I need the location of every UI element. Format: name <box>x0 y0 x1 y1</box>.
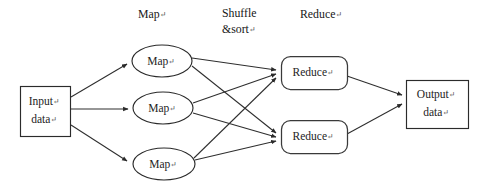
reduce-1-label: Reduce↵ <box>293 66 334 78</box>
output-data-label-line1: Output↵ <box>417 88 455 101</box>
pilcrow-mark: ↵ <box>327 132 333 141</box>
edge-group-maps-to-reduces <box>192 58 276 160</box>
pilcrow-mark: ↵ <box>327 68 333 77</box>
edge-input-to-map-1 <box>71 64 127 97</box>
stage-header-group: Map↵ Shuffle &sort↵ Reduce↵ <box>138 6 342 36</box>
edge-map-3-to-reduce-2 <box>195 141 276 160</box>
node-reduce-2[interactable]: Reduce↵ <box>282 121 348 154</box>
node-reduce-1[interactable]: Reduce↵ <box>282 57 348 90</box>
edge-map-2-to-reduce-2 <box>193 113 276 137</box>
edge-reduce-2-to-output <box>347 104 402 134</box>
node-input-data[interactable]: Input↵ data↵ <box>21 87 71 137</box>
input-data-label-line2: data↵ <box>31 113 57 125</box>
stage-header-shuffle-line2: &sort↵ <box>222 22 255 36</box>
pilcrow-mark: ↵ <box>335 10 342 19</box>
mapreduce-diagram-canvas: Input↵ data↵ Map↵ Map↵ Map↵ <box>0 0 486 189</box>
pilcrow-mark: ↵ <box>168 57 174 66</box>
output-data-label-line2: data↵ <box>423 106 449 118</box>
node-output-data[interactable]: Output↵ data↵ <box>407 81 469 129</box>
pilcrow-mark: ↵ <box>50 115 56 124</box>
node-map-2[interactable]: Map↵ <box>133 92 193 124</box>
map-2-label: Map↵ <box>148 102 175 115</box>
stage-header-shuffle-line1: Shuffle <box>222 6 257 20</box>
pilcrow-mark: ↵ <box>249 25 256 34</box>
edge-map-1-to-reduce-1 <box>192 58 276 70</box>
pilcrow-mark: ↵ <box>169 104 175 113</box>
map-3-label: Map↵ <box>149 158 176 171</box>
edge-reduce-1-to-output <box>347 76 402 95</box>
pilcrow-mark: ↵ <box>442 108 448 117</box>
edge-map-3-to-reduce-1 <box>194 78 276 158</box>
edge-group-input-to-maps <box>71 64 128 161</box>
reduce-2-label: Reduce↵ <box>293 130 334 142</box>
pilcrow-mark: ↵ <box>160 10 167 19</box>
pilcrow-mark: ↵ <box>53 97 59 106</box>
pilcrow-mark: ↵ <box>170 160 176 169</box>
pilcrow-mark: ↵ <box>449 90 455 99</box>
map-1-label: Map↵ <box>147 55 174 68</box>
node-map-1[interactable]: Map↵ <box>132 45 192 77</box>
edge-map-2-to-reduce-1 <box>193 74 276 103</box>
stage-header-map: Map↵ <box>138 7 166 21</box>
edge-input-to-map-3 <box>71 125 127 161</box>
stage-header-reduce: Reduce↵ <box>300 7 342 21</box>
edge-group-reduces-to-output <box>347 76 402 134</box>
diagram-svg: Input↵ data↵ Map↵ Map↵ Map↵ <box>0 0 486 189</box>
node-map-3[interactable]: Map↵ <box>133 148 195 180</box>
input-data-label-line1: Input↵ <box>29 95 60 108</box>
